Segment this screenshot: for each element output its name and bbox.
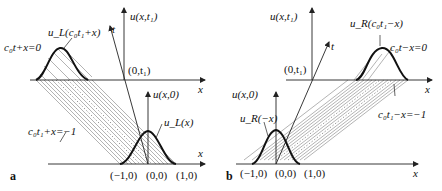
label-x-upper-a: x: [197, 83, 203, 95]
label-line-upper-a: c₀t+x=0: [4, 41, 41, 53]
panel-label-b: b: [226, 169, 233, 183]
panel-a: u(x,t₁) t (0,t₁) x u(x,0) x u_L(c₀t₁+x) …: [4, 8, 205, 183]
panel-b: u(x,t₁) t (0,t₁) x u(x,0) x u_R(c₀t₁−x) …: [226, 8, 432, 183]
label-t-axis-a: t: [112, 23, 116, 35]
label-initial-wave-a: u_L(x): [164, 116, 194, 129]
tick-neg1-a: (−1,0): [110, 169, 138, 182]
label-u-xt1-a: u(x,t₁): [130, 10, 158, 23]
label-x-lower-a: x: [197, 147, 203, 159]
tick-1-a: (1,0): [176, 169, 197, 182]
t-axis-a: [110, 26, 148, 164]
label-x-lower-b: x: [412, 167, 418, 179]
tick-neg1-b: (−1,0): [240, 167, 268, 180]
tick-0-b: (0,0): [275, 167, 296, 180]
label-point-0-t1-b: (0,t₁): [284, 63, 307, 76]
characteristic-band-a: [36, 49, 176, 164]
label-line-lower-b: c₀t₁−x=−1: [378, 108, 426, 120]
tick-0-a: (0,0): [146, 169, 167, 182]
tick-1-b: (1,0): [304, 167, 325, 180]
panel-label-a: a: [10, 169, 16, 183]
label-u-x0-b: u(x,0): [232, 88, 258, 101]
label-line-lower-a: c₀t₁+x=−1: [28, 125, 76, 137]
label-line-upper-b: c₀t−x=0: [390, 41, 427, 53]
label-u-x0-a: u(x,0): [153, 88, 179, 101]
label-initial-wave-b: u_R(−x): [240, 112, 278, 125]
label-x-upper-b: x: [424, 83, 430, 95]
label-moving-wave-a: u_L(c₀t₁+x): [48, 26, 101, 39]
label-u-xt1-b: u(x,t₁): [270, 10, 298, 23]
figure: u(x,t₁) t (0,t₁) x u(x,0) x u_L(c₀t₁+x) …: [0, 0, 442, 191]
label-point-0-t1-a: (0,t₁): [128, 64, 151, 77]
label-t-axis-b: t: [331, 40, 335, 52]
label-moving-wave-b: u_R(c₀t₁−x): [350, 17, 403, 30]
characteristic-band-b: [244, 48, 408, 160]
